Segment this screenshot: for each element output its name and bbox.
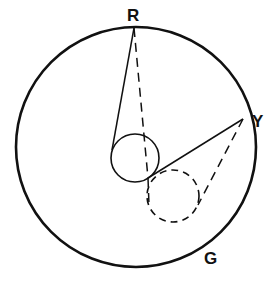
circle-tangent-diagram: R Y G bbox=[0, 0, 276, 282]
outer-circle bbox=[16, 27, 256, 267]
dashed-line-y-to-dashed-circle bbox=[198, 119, 243, 205]
label-r: R bbox=[127, 6, 139, 25]
line-y-to-solid-circle bbox=[148, 119, 243, 178]
label-g: G bbox=[204, 249, 217, 268]
line-r-to-solid-circle-left bbox=[112, 28, 134, 150]
label-y: Y bbox=[252, 112, 264, 131]
small-dashed-circle bbox=[147, 170, 199, 222]
dashed-line-r-down bbox=[134, 28, 148, 178]
